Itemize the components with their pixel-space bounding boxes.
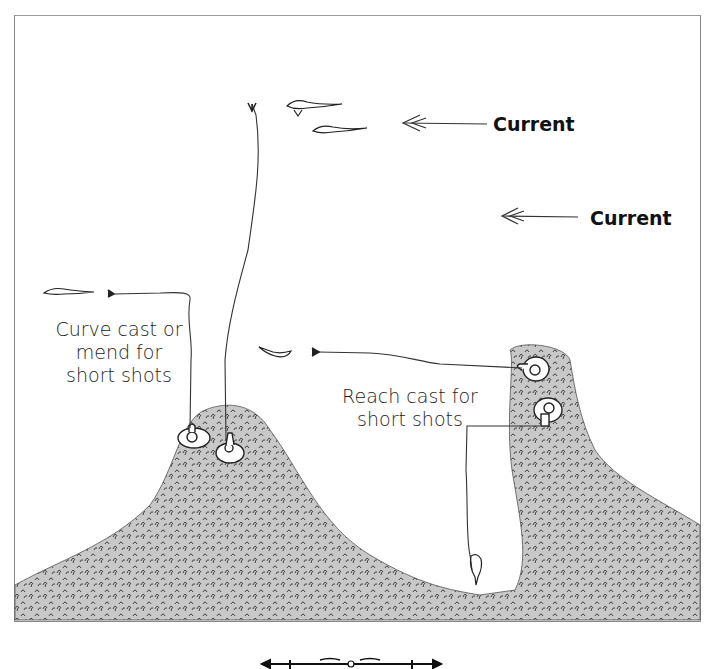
arrow-left-icon bbox=[502, 208, 578, 224]
fly-icon bbox=[108, 290, 114, 297]
fly-icon bbox=[312, 348, 319, 356]
fish-icon bbox=[287, 101, 342, 116]
fish-icon bbox=[259, 347, 291, 357]
annotation-line: mend for bbox=[44, 341, 194, 364]
fly-line bbox=[225, 104, 258, 440]
arrow-left-icon bbox=[403, 115, 487, 131]
annotation-line: Reach cast for bbox=[335, 385, 485, 408]
annotation-line: short shots bbox=[44, 364, 194, 387]
annotation-line: short shots bbox=[335, 408, 485, 431]
fish-icon bbox=[471, 555, 482, 585]
curve-cast-annotation: Curve cast or mend for short shots bbox=[44, 318, 194, 387]
fish-icon bbox=[313, 126, 367, 133]
reach-cast-annotation: Reach cast for short shots bbox=[335, 385, 485, 431]
fly-line bbox=[318, 352, 522, 368]
annotation-line: Curve cast or bbox=[44, 318, 194, 341]
current-label: Current bbox=[590, 207, 672, 229]
rod-ornament-icon bbox=[262, 659, 441, 669]
current-label: Current bbox=[493, 113, 575, 135]
fish-icon bbox=[44, 289, 94, 295]
